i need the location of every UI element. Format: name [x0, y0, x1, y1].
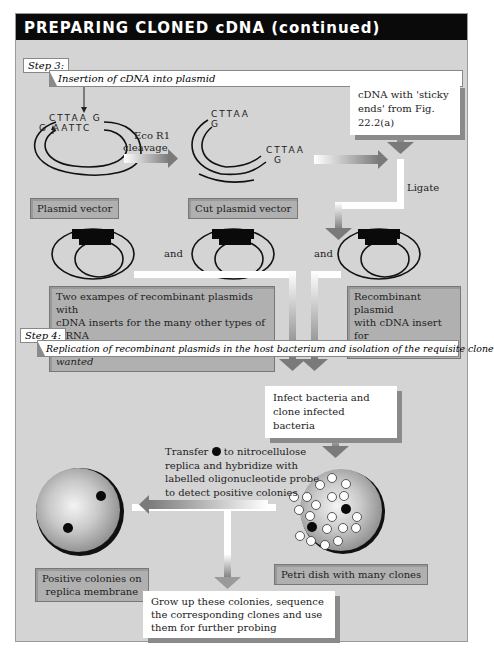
recombinant-plasmid-3 [338, 229, 420, 279]
wanted-line-2: with cDNA insert for [354, 316, 454, 342]
corner-triangle-icon [37, 340, 45, 356]
petri-dish-label: Petri dish with many clones [274, 564, 428, 585]
and-label-1: and [164, 247, 183, 260]
transfer-line-4: to detect positive colonies [165, 486, 319, 500]
transfer-line-3: labelled oligonucleotide probe [165, 472, 319, 486]
cut-plasmid-text: Cut plasmid vector [195, 203, 291, 214]
infect-line-1: Infect bacteria and [273, 392, 370, 403]
growup-line-2: the corresponding clones and use [151, 609, 322, 620]
cut-seq-1-top: CTTAA [211, 109, 250, 119]
unwanted-line-2: cDNA inserts for the many other types of… [56, 316, 268, 342]
plasmid-top-sequence: CTTAA G [49, 113, 102, 123]
infect-line-2: clone infected bacteria [273, 406, 345, 431]
step-3-text: Insertion of cDNA into plasmid [58, 73, 215, 84]
recombinant-plasmid-1 [52, 229, 134, 279]
replica-line-1: Positive colonies on [42, 572, 142, 585]
unwanted-recombinants-label: Two exampes of recombinant plasmids with… [49, 286, 275, 372]
ligate-label: Ligate [407, 181, 439, 194]
cut-plasmid-vector-label: Cut plasmid vector [188, 198, 298, 219]
transfer-line-1: Transfer to nitrocellulose [165, 445, 319, 459]
corner-triangle-icon [49, 70, 57, 86]
plasmid-bottom-sequence: G AATTC [39, 123, 91, 133]
cdna-box-line-2: ends' from Fig. 22.2(a) [358, 103, 435, 128]
petri-dish-text: Petri dish with many clones [281, 569, 421, 580]
plasmid-vector-label: Plasmid vector [30, 198, 119, 219]
transfer-instructions: Transfer to nitrocellulose replica and h… [165, 445, 319, 499]
cleavage-label: cleavage [123, 141, 168, 154]
wanted-line-1: Recombinant plasmid [354, 290, 454, 316]
figure-panel: PREPARING CLONED cDNA (continued) [15, 13, 468, 642]
transfer-word: Transfer [165, 446, 208, 457]
colony-dot-icon [212, 447, 221, 456]
cut-seq-2-top: CTTAA [266, 145, 305, 155]
replica-membrane-label: Positive colonies on replica membrane [35, 568, 149, 602]
plasmid-vector-text: Plasmid vector [37, 203, 112, 214]
step-4-text: Replication of recombinant plasmids in t… [46, 343, 494, 354]
and-label-2: and [314, 247, 333, 260]
replica-line-2: replica membrane [42, 585, 142, 598]
transfer-line-1-rest: to nitrocellulose [224, 446, 306, 457]
cdna-sticky-ends-box: cDNA with 'sticky ends' from Fig. 22.2(a… [350, 83, 460, 135]
cut-seq-2-bottom: G [274, 155, 283, 165]
unwanted-line-1: Two exampes of recombinant plasmids with [56, 290, 268, 316]
growup-line-3: them for further probing [151, 622, 277, 633]
transfer-line-2: replica and hybridize with [165, 459, 319, 473]
step-4-description: Replication of recombinant plasmids in t… [37, 340, 459, 357]
infect-bacteria-box: Infect bacteria and clone infected bacte… [265, 386, 397, 438]
cdna-box-line-1: cDNA with 'sticky [358, 89, 449, 100]
growup-line-1: Grow up these colonies, sequence [151, 596, 324, 607]
cut-seq-1-bottom: G [211, 119, 220, 129]
grow-up-box: Grow up these colonies, sequence the cor… [143, 591, 335, 638]
